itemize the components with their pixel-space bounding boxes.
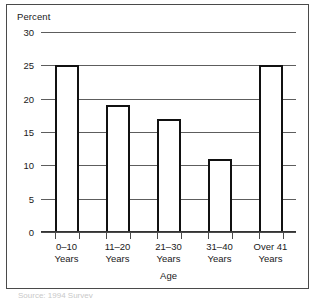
plot-area: 051015202530 0–10Years11–20Years21–30Yea… [41,32,296,232]
x-axis-category-label-line: 31–40 [206,241,232,253]
bar [157,119,181,232]
x-axis-tick [55,232,56,239]
x-axis-category-label: 21–30Years [155,241,181,264]
bar [55,65,79,232]
y-axis-tick-label: 30 [23,27,34,38]
x-axis-ticks [41,232,296,239]
y-axis-tick-label: 25 [23,60,34,71]
x-axis-tick [157,232,158,239]
bar [208,159,232,232]
x-axis-category-label: 11–20Years [105,241,131,264]
x-axis-category-label: 31–40Years [206,241,232,264]
x-axis-tick [106,232,107,239]
x-axis-category-label: Over 41Years [254,241,288,264]
caption-sliver: Source: 1994 Survey [18,291,138,298]
x-axis-tick [181,232,182,239]
x-axis-tick [79,232,80,239]
x-axis-category-label: 0–10Years [55,241,79,264]
x-axis-category-label-line: 0–10 [55,241,79,253]
x-axis-tick-labels: 0–10Years11–20Years21–30Years31–40YearsO… [41,241,296,271]
x-axis-category-label-line: Years [254,253,288,265]
y-axis-tick-label: 15 [23,127,34,138]
x-axis-tick [208,232,209,239]
x-axis-tick [130,232,131,239]
bar-series [41,32,296,232]
x-axis-category-label-line: 21–30 [155,241,181,253]
x-axis-title: Age [41,270,296,281]
x-axis-tick [283,232,284,239]
y-axis-title: Percent [17,11,50,22]
bar [259,65,283,232]
y-axis-tick-label: 5 [29,193,34,204]
x-axis-tick [259,232,260,239]
y-axis-tick-label: 0 [29,227,34,238]
x-axis-category-label-line: Years [206,253,232,265]
y-axis-tick-label: 10 [23,160,34,171]
x-axis-category-label-line: Years [155,253,181,265]
x-axis-category-label-line: Over 41 [254,241,288,253]
x-axis-category-label-line: 11–20 [105,241,131,253]
x-axis-category-label-line: Years [105,253,131,265]
chart-figure: Percent 051015202530 0–10Years11–20Years… [0,0,316,298]
x-axis-category-label-line: Years [55,253,79,265]
x-axis-tick [232,232,233,239]
bar [106,105,130,232]
y-axis-tick-label: 20 [23,93,34,104]
